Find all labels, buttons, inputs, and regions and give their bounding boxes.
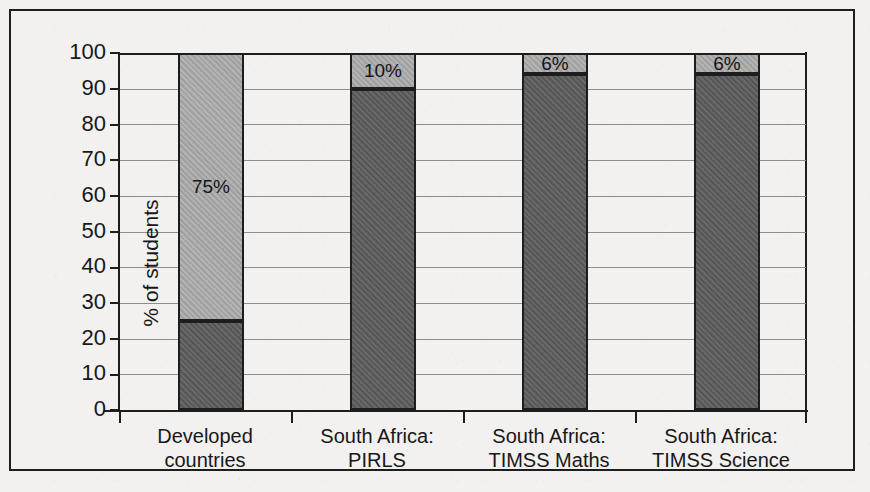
y-tick-label: 30 bbox=[50, 291, 106, 313]
x-category-label-line1: South Africa: bbox=[492, 425, 605, 447]
plot-area: 75% 10% 6% 6% bbox=[120, 53, 806, 410]
x-tick-mark bbox=[463, 411, 465, 423]
bar-segment-label: 75% bbox=[192, 177, 230, 196]
y-tick-label: 20 bbox=[50, 327, 106, 349]
y-tick-label: 70 bbox=[50, 148, 106, 170]
bar-segment-lower bbox=[178, 321, 244, 410]
x-category-label-line1: Developed bbox=[157, 425, 253, 447]
x-tick-mark bbox=[805, 411, 807, 423]
y-tick-label: 50 bbox=[50, 220, 106, 242]
bar-segment-label: 6% bbox=[713, 54, 740, 73]
x-category-label-line2: PIRLS bbox=[291, 448, 463, 472]
bar-segment-lower bbox=[522, 74, 588, 410]
x-category-label: South Africa: TIMSS Maths bbox=[463, 424, 635, 472]
x-category-label-line1: South Africa: bbox=[320, 425, 433, 447]
bar-segment-upper: 6% bbox=[694, 53, 760, 74]
bar-group: 6% bbox=[522, 53, 588, 410]
x-category-label: South Africa: TIMSS Science bbox=[635, 424, 807, 472]
x-tick-mark bbox=[635, 411, 637, 423]
x-tick-mark bbox=[291, 411, 293, 423]
x-tick-mark bbox=[119, 411, 121, 423]
x-axis-line bbox=[104, 410, 808, 412]
y-axis-tick-labels: 100 90 80 70 60 50 40 30 20 10 0 bbox=[44, 0, 106, 492]
x-category-label-line1: South Africa: bbox=[664, 425, 777, 447]
x-category-label-line2: TIMSS Maths bbox=[463, 448, 635, 472]
bar-segment-lower bbox=[350, 89, 416, 410]
y-tick-label: 80 bbox=[50, 113, 106, 135]
y-tick-label: 10 bbox=[50, 362, 106, 384]
y-tick-label: 60 bbox=[50, 184, 106, 206]
y-tick-label: 90 bbox=[50, 77, 106, 99]
bar-group: 75% bbox=[178, 53, 244, 410]
y-tick-label: 0 bbox=[50, 398, 106, 420]
bar-segment-upper: 75% bbox=[178, 53, 244, 321]
x-category-label: Developed countries bbox=[119, 424, 291, 472]
figure-screenshot: 100 90 80 70 60 50 40 30 20 10 0 bbox=[0, 0, 870, 492]
bar-group: 6% bbox=[694, 53, 760, 410]
bar-segment-label: 10% bbox=[364, 61, 402, 80]
y-tick-label: 100 bbox=[50, 41, 106, 63]
bar-segment-label: 6% bbox=[541, 54, 568, 73]
x-category-label-line2: TIMSS Science bbox=[635, 448, 807, 472]
bar-segment-upper: 6% bbox=[522, 53, 588, 74]
x-category-label-line2: countries bbox=[119, 448, 291, 472]
bar-group: 10% bbox=[350, 53, 416, 410]
bar-segment-upper: 10% bbox=[350, 53, 416, 89]
y-axis-title: % of students bbox=[139, 168, 163, 358]
bar-segment-lower bbox=[694, 74, 760, 410]
x-category-label: South Africa: PIRLS bbox=[291, 424, 463, 472]
y-tick-label: 40 bbox=[50, 255, 106, 277]
